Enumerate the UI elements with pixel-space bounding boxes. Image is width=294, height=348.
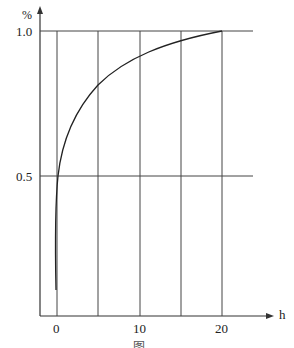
y-tick-0.5: 0.5 [16,170,32,183]
x-tick-20: 20 [215,322,228,335]
y-axis-arrow-icon [37,6,43,14]
x-unit-label: h [279,308,286,321]
x-tick-10: 10 [133,322,146,335]
figure-caption: 图 ... [0,341,294,348]
x-tick-0: 0 [53,322,60,335]
y-unit-label: % [22,9,32,21]
y-tick-1.0: 1.0 [16,25,32,38]
x-axis-arrow-icon [266,313,274,319]
chart-canvas [0,0,294,348]
data-curve [56,31,222,290]
